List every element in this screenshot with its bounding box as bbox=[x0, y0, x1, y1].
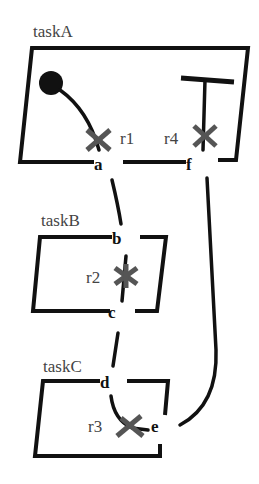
wire-f-to-e bbox=[180, 178, 216, 425]
port-a-label: a bbox=[94, 155, 103, 174]
task-a-label: taskA bbox=[33, 22, 73, 41]
port-e-label: e bbox=[151, 417, 159, 436]
resource-r2-label: r2 bbox=[86, 268, 100, 287]
task-b-label: taskB bbox=[41, 211, 80, 230]
resource-r3-cross-icon bbox=[117, 416, 143, 436]
wire-start-to-a bbox=[60, 90, 99, 150]
wire-a-to-b bbox=[112, 180, 121, 224]
wire-c-to-d bbox=[113, 333, 118, 366]
port-b-label: b bbox=[112, 229, 121, 248]
port-c-label: c bbox=[108, 303, 116, 322]
task-c-group: taskC d r3 e bbox=[35, 357, 168, 456]
task-b-frame-right bbox=[135, 237, 166, 311]
task-b-group: taskB b r2 c bbox=[33, 211, 166, 322]
port-d-label: d bbox=[100, 373, 110, 392]
resource-r4-label: r4 bbox=[164, 129, 179, 148]
task-c-label: taskC bbox=[43, 357, 82, 376]
resource-r3-label: r3 bbox=[88, 417, 102, 436]
task-flow-diagram: taskA r1 a r4 f taskB b bbox=[0, 0, 259, 484]
task-a-group: taskA r1 a r4 f bbox=[20, 22, 248, 174]
port-f-label: f bbox=[186, 155, 192, 174]
resource-r1-label: r1 bbox=[120, 129, 134, 148]
task-c-frame-right bbox=[127, 381, 168, 415]
end-t-bar-icon bbox=[181, 78, 234, 82]
resource-r2-cross-icon bbox=[115, 264, 137, 288]
